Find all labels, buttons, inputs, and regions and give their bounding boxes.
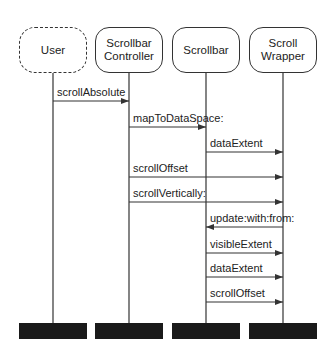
arrowhead-icon xyxy=(275,199,283,205)
arrowhead-icon xyxy=(206,224,214,230)
participant-scrollbar: Scrollbar xyxy=(172,27,240,73)
arrowhead-icon xyxy=(275,250,283,256)
participant-user: User xyxy=(19,27,87,73)
participant-label: ScrollWrapper xyxy=(261,37,305,63)
arrowhead-icon xyxy=(198,124,206,130)
message-label: scrollVertically: xyxy=(133,187,206,199)
message-label: dataExtent xyxy=(210,262,263,274)
arrowhead-icon xyxy=(121,98,129,104)
participant-scroll-wrapper: ScrollWrapper xyxy=(249,27,317,73)
participant-label: ScrollbarController xyxy=(104,37,154,63)
arrowhead-icon xyxy=(275,174,283,180)
message-label: update:with:from: xyxy=(210,212,294,224)
lifeline-end-bar xyxy=(249,323,317,339)
message-label: mapToDataSpace: xyxy=(133,112,224,124)
lifeline-end-bar xyxy=(172,323,240,339)
message-label: scrollOffset xyxy=(133,162,188,174)
message-label: visibleExtent xyxy=(210,238,272,250)
lifeline-end-bar xyxy=(19,323,87,339)
arrowhead-icon xyxy=(275,274,283,280)
participant-label: User xyxy=(41,44,65,57)
message-label: scrollOffset xyxy=(210,287,265,299)
message-label: dataExtent xyxy=(210,137,263,149)
arrowhead-icon xyxy=(275,149,283,155)
participant-scrollbar-controller: ScrollbarController xyxy=(95,27,163,73)
arrowhead-icon xyxy=(275,299,283,305)
lifeline-end-bar xyxy=(95,323,163,339)
message-label: scrollAbsolute xyxy=(57,86,125,98)
participant-label: Scrollbar xyxy=(183,44,228,57)
